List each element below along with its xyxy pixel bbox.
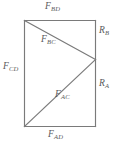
label-f-ac: FAC [55, 90, 70, 100]
label-r-b: RB [99, 26, 109, 36]
diagram-canvas [0, 0, 120, 145]
label-f-bd: FBD [45, 2, 60, 12]
label-f-bc: FBC [41, 35, 56, 45]
label-f-bc-subscript: BC [47, 38, 56, 45]
label-f-cd: FCD [3, 62, 18, 72]
member-f-bc [25, 21, 96, 60]
force-diagram: FBD FBC FCD FAC FAD RB RA [0, 0, 120, 145]
label-f-ac-subscript: AC [61, 93, 70, 100]
label-f-cd-subscript: CD [9, 65, 18, 72]
label-r-b-subscript: B [105, 29, 109, 36]
label-f-ad: FAD [48, 130, 63, 140]
label-r-a: RA [99, 79, 109, 89]
label-f-bd-subscript: BD [51, 5, 60, 12]
label-r-a-subscript: A [105, 82, 109, 89]
label-f-ad-subscript: AD [54, 133, 63, 140]
